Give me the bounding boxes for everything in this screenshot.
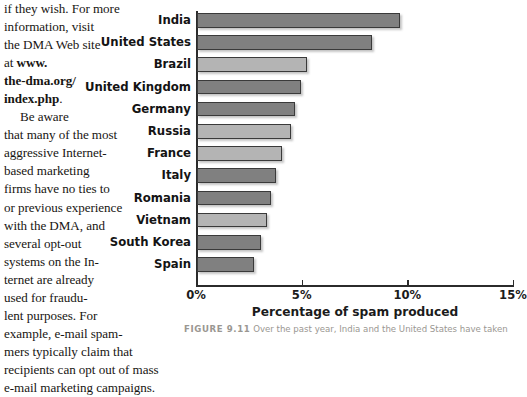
x-axis-tick-mark: [513, 280, 514, 286]
bar-category-label: Germany: [132, 102, 191, 116]
bar-category-label: United States: [101, 35, 191, 49]
bar: [197, 102, 295, 117]
body-line: recipients can opt out of mass: [4, 361, 189, 379]
body-line: e-mail marketing campaigns.: [4, 379, 189, 397]
bar-row: United States: [112, 33, 517, 54]
bar: [197, 235, 261, 250]
x-axis-title: Percentage of spam produced: [196, 305, 514, 319]
bar-category-label: Vietnam: [136, 213, 191, 227]
bar-row: Spain: [112, 255, 517, 276]
x-axis-tick-label: 0%: [186, 288, 206, 302]
figure-9-11: IndiaUnited StatesBrazilUnited KingdomGe…: [112, 0, 517, 339]
bar: [197, 124, 291, 139]
x-axis-tick-mark: [196, 280, 197, 286]
figure-caption-text: Over the past year, India and the United…: [253, 324, 508, 334]
bar-row: Russia: [112, 122, 517, 143]
dma-url-part: www.: [17, 55, 48, 70]
bar-category-label: Russia: [148, 124, 191, 138]
url-trailing-period: .: [59, 91, 62, 106]
bar: [197, 80, 301, 95]
value-axis-line: [196, 285, 514, 287]
bar-category-label: Italy: [162, 168, 191, 182]
figure-caption: FIGURE 9.11 Over the past year, India an…: [184, 324, 524, 336]
x-axis-tick-mark: [407, 280, 408, 286]
bar-row: South Korea: [112, 233, 517, 254]
bar-row: France: [112, 144, 517, 165]
x-axis-tick-mark: [302, 280, 303, 286]
bar: [197, 191, 271, 206]
bar-row: Germany: [112, 100, 517, 121]
bar: [197, 146, 282, 161]
figure-number: FIGURE 9.11: [184, 324, 250, 334]
x-axis-tick-label: 15%: [499, 288, 527, 302]
bar-category-label: South Korea: [110, 235, 191, 249]
bar: [197, 13, 400, 28]
bar: [197, 213, 267, 228]
bar-category-label: France: [147, 146, 191, 160]
bar: [197, 257, 254, 272]
body-line-prefix: at: [4, 55, 17, 70]
body-line: mers typically claim that: [4, 343, 189, 361]
x-axis-tick-label: 10%: [393, 288, 421, 302]
bar-category-label: Spain: [154, 257, 191, 271]
bar-category-label: Romania: [134, 191, 191, 205]
bar-row: Romania: [112, 189, 517, 210]
bar: [197, 168, 276, 183]
bar-row: United Kingdom: [112, 78, 517, 99]
bar: [197, 35, 372, 50]
bar: [197, 57, 307, 72]
dma-url-part: index.php: [4, 91, 59, 106]
bar-row: Italy: [112, 166, 517, 187]
bar-chart-plot-area: IndiaUnited StatesBrazilUnited KingdomGe…: [112, 0, 517, 300]
x-axis-tick-label: 5%: [292, 288, 312, 302]
bar-category-label: Brazil: [154, 57, 191, 71]
bar-row: Brazil: [112, 55, 517, 76]
bar-row: India: [112, 11, 517, 32]
bar-category-label: United Kingdom: [85, 80, 191, 94]
bar-category-label: India: [158, 13, 191, 27]
bar-row: Vietnam: [112, 211, 517, 232]
